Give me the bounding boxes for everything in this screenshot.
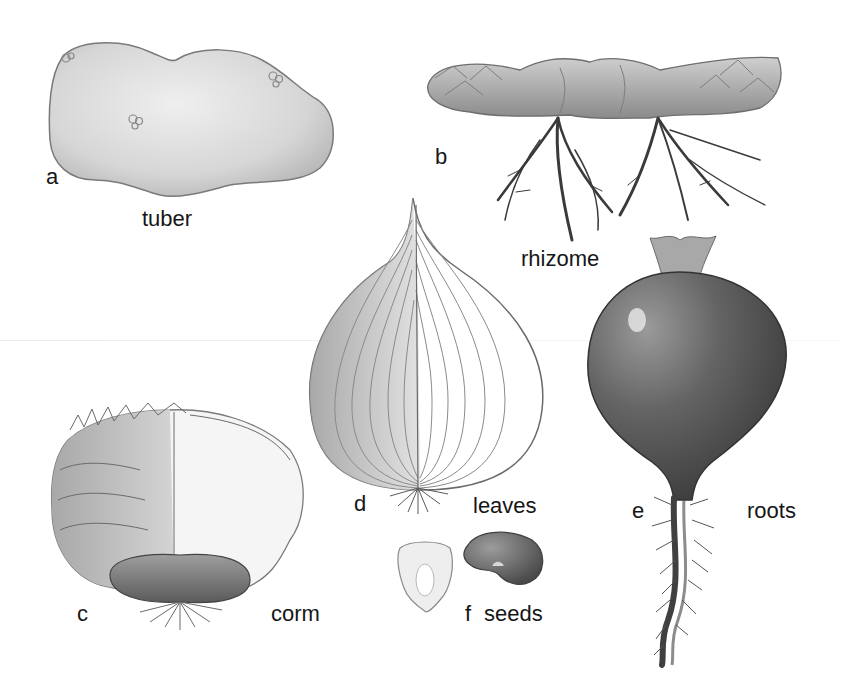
label-letter-f: f — [465, 603, 471, 625]
label-tuber: tuber — [142, 208, 192, 230]
label-letter-c: c — [77, 603, 88, 625]
label-letter-e: e — [632, 500, 644, 522]
storage-organs-figure: a tuber b rhizome c corm d leaves e root… — [0, 0, 842, 688]
label-rhizome: rhizome — [521, 248, 599, 270]
rhizome-illustration — [428, 57, 781, 240]
corm-illustration — [52, 403, 304, 630]
label-corm: corm — [271, 603, 320, 625]
radish-illustration — [588, 236, 786, 665]
onion-bulb-illustration — [310, 198, 543, 514]
bean-icon — [464, 532, 543, 584]
illustrations — [0, 0, 842, 688]
label-seeds: seeds — [484, 603, 543, 625]
onion-roots — [390, 488, 448, 514]
tuber-illustration — [49, 43, 333, 197]
corm-roots — [140, 602, 222, 630]
label-letter-d: d — [354, 493, 366, 515]
label-roots: roots — [747, 500, 796, 522]
rhizome-roots — [498, 118, 765, 240]
label-letter-a: a — [46, 166, 58, 188]
label-leaves: leaves — [473, 495, 537, 517]
label-letter-b: b — [435, 146, 447, 168]
